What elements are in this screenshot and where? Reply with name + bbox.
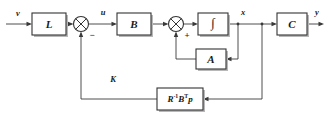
arrowhead-K-into-sum1 (79, 32, 83, 38)
arrowhead-into-L (27, 22, 33, 26)
block-C-label: C (288, 18, 296, 30)
signal-label-y: y (314, 7, 319, 17)
arrowhead-A-into-sum2 (174, 32, 178, 38)
arrowhead-into-B (112, 22, 118, 26)
sum1-minus-sign: − (89, 30, 94, 40)
block-K-gain-label: R-1BTp (166, 93, 193, 104)
signal-label-K: K (109, 74, 117, 84)
k-base-r: R (166, 94, 173, 104)
signal-label-u: u (101, 7, 106, 17)
arrowhead-output-y (319, 22, 325, 26)
arrowhead-into-sum2 (163, 22, 169, 26)
control-block-diagram: L B ∫ C A R-1BTp − + v u x y (0, 0, 325, 118)
arrowhead-into-C (272, 22, 278, 26)
arrowhead-into-sum1 (68, 22, 74, 26)
diagram-canvas: L B ∫ C A R-1BTp − + v u x y (0, 0, 325, 118)
signal-label-v: v (16, 8, 20, 18)
arrowhead-into-integrator (193, 22, 199, 26)
sum2-plus-sign: + (184, 30, 189, 40)
block-B-label: B (129, 18, 137, 30)
k-base-p: p (187, 94, 193, 104)
block-A-label: A (206, 53, 214, 65)
signal-label-x: x (240, 7, 246, 17)
block-L-label: L (45, 18, 53, 30)
k-base-b: B (177, 94, 184, 104)
